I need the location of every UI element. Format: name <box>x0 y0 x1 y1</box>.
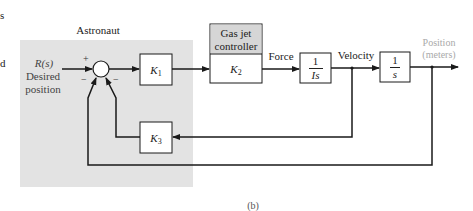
controller-header-line1: Gas jet <box>221 27 252 39</box>
left-cropped-text-2: d <box>0 57 6 69</box>
k1-label: K1 <box>150 64 161 80</box>
force-label: Force <box>268 50 293 62</box>
controller-header-line2: controller <box>215 40 258 52</box>
integrator-tf: 1 s <box>390 55 400 80</box>
position-label-line2: (meters) <box>422 49 455 61</box>
minus-sign-right: − <box>113 75 119 85</box>
k2-label: K2 <box>230 63 241 79</box>
position-label-line1: Position <box>423 37 456 49</box>
astronaut-label: Astronaut <box>76 24 119 36</box>
figure-caption: (b) <box>247 200 259 211</box>
input-label-line1: Desired <box>26 70 60 82</box>
left-cropped-text-1: s <box>0 9 4 21</box>
minus-sign-left: − <box>81 75 87 85</box>
inertia-tf: 1 Is <box>309 56 323 81</box>
k3-label: K3 <box>150 132 161 148</box>
velocity-label: Velocity <box>338 49 375 61</box>
summing-junction <box>93 61 109 77</box>
input-label-line2: position <box>25 83 60 95</box>
input-symbol: R(s) <box>35 57 53 69</box>
plus-sign: + <box>83 54 89 64</box>
